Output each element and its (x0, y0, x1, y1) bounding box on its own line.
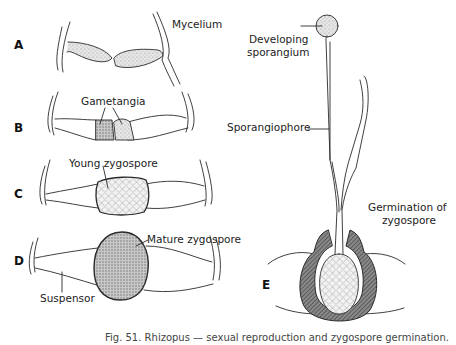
label-developing-line2: sporangium (247, 47, 309, 58)
stage-e-drawing (268, 15, 405, 321)
stage-a-drawing (57, 12, 180, 86)
label-mycelium: Mycelium (172, 19, 222, 30)
panel-label-d: D (14, 254, 24, 268)
label-germination-line2: zygospore (382, 215, 436, 226)
label-developing-line1: Developing (249, 34, 308, 45)
label-germination-line1: Germination of (368, 202, 447, 213)
panel-label-a: A (14, 38, 23, 52)
panel-label-c: C (14, 187, 23, 201)
label-suspensor: Suspensor (40, 293, 95, 304)
label-young-zygospore: Young zygospore (69, 158, 158, 169)
figure-caption: Fig. 51. Rhizopus — sexual reproduction … (105, 332, 449, 343)
label-gametangia: Gametangia (81, 96, 145, 107)
label-mature-zygospore: Mature zygospore (147, 234, 241, 245)
label-sporangiophore: Sporangiophore (227, 122, 310, 133)
panel-label-b: B (14, 121, 23, 135)
panel-label-e: E (262, 278, 270, 292)
